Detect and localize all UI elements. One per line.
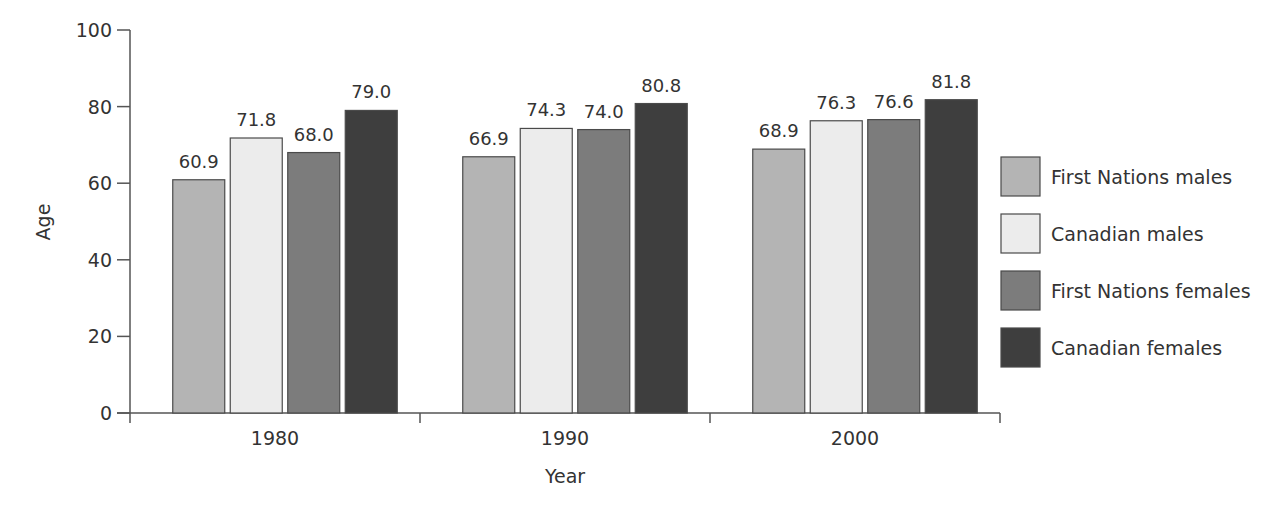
bar-value-label: 81.8	[931, 71, 971, 92]
legend-swatch	[1001, 157, 1040, 196]
x-category-label: 2000	[831, 427, 879, 449]
bar-value-label: 71.8	[236, 109, 276, 130]
bar-value-label: 80.8	[641, 75, 681, 96]
bar	[345, 110, 397, 413]
y-tick-label: 60	[88, 172, 112, 194]
legend-label: Canadian males	[1051, 223, 1204, 245]
y-tick-label: 40	[88, 249, 112, 271]
bar-value-label: 66.9	[469, 128, 509, 149]
y-tick-label: 100	[76, 19, 112, 41]
legend-label: Canadian females	[1051, 337, 1222, 359]
y-tick-label: 80	[88, 96, 112, 118]
bar	[173, 180, 225, 413]
bar-value-label: 76.3	[816, 92, 856, 113]
bar-value-label: 68.0	[294, 124, 334, 145]
bar	[925, 100, 977, 413]
legend-swatch	[1001, 214, 1040, 253]
bar	[635, 104, 687, 413]
bar-value-label: 79.0	[351, 81, 391, 102]
bars-group: 60.971.868.079.066.974.374.080.868.976.3…	[173, 71, 978, 413]
y-axis: 020406080100	[76, 19, 130, 424]
legend-swatch	[1001, 271, 1040, 310]
bar-value-label: 68.9	[759, 120, 799, 141]
y-axis-title: Age	[32, 204, 54, 241]
legend-swatch	[1001, 328, 1040, 367]
x-axis-title: Year	[544, 465, 585, 487]
bar-value-label: 74.3	[526, 99, 566, 120]
bar-chart: 020406080100 198019902000 60.971.868.079…	[0, 0, 1286, 511]
bar-value-label: 76.6	[874, 91, 914, 112]
x-axis: 198019902000	[117, 413, 1000, 449]
y-tick-label: 20	[88, 325, 112, 347]
y-tick-label: 0	[100, 402, 112, 424]
bar-value-label: 74.0	[584, 101, 624, 122]
bar	[520, 128, 572, 413]
legend: First Nations malesCanadian malesFirst N…	[1001, 157, 1251, 367]
bar	[230, 138, 282, 413]
bar	[463, 157, 515, 413]
x-category-label: 1990	[541, 427, 589, 449]
bar-value-label: 60.9	[179, 151, 219, 172]
bar	[868, 120, 920, 413]
x-category-label: 1980	[251, 427, 299, 449]
legend-label: First Nations males	[1051, 166, 1232, 188]
bar	[578, 130, 630, 413]
bar	[753, 149, 805, 413]
bar	[288, 153, 340, 413]
legend-label: First Nations females	[1051, 280, 1251, 302]
bar	[810, 121, 862, 413]
